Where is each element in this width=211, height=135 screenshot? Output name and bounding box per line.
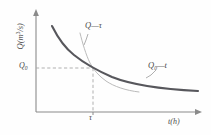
leader-line-q0-t [146, 70, 156, 78]
curve-label-q-tau-tail: τ [99, 20, 102, 30]
y-axis-title-exponent: 3 [15, 32, 21, 35]
y-axis-arrowhead [33, 9, 39, 16]
curve-q0-t [52, 26, 198, 91]
leader-line-q-tau [84, 34, 88, 45]
x-axis-tick-label-tau: τ [89, 114, 92, 122]
curve-label-q0-t-tail: t [164, 60, 166, 70]
curve-label-q-tau: Q—τ [85, 21, 102, 30]
y-tick-label-subscript: 0 [25, 65, 28, 71]
y-axis-tick-label-q0: Q0 [19, 62, 28, 71]
plot-canvas [0, 0, 211, 135]
curve-label-q0-t: Q0—t [148, 61, 167, 71]
curve-label-q-tau-dash: — [91, 20, 99, 30]
x-axis-arrowhead [195, 109, 202, 115]
x-axis-title: t(h) [168, 118, 180, 126]
y-axis-title-tail: /s) [15, 23, 25, 32]
y-axis-title-base: Q(m [15, 34, 25, 49]
y-axis-title: Q(m3/s) [16, 6, 25, 66]
figure-container: Q(m3/s) t(h) Q0 τ Q—τ Q0—t [0, 0, 211, 135]
